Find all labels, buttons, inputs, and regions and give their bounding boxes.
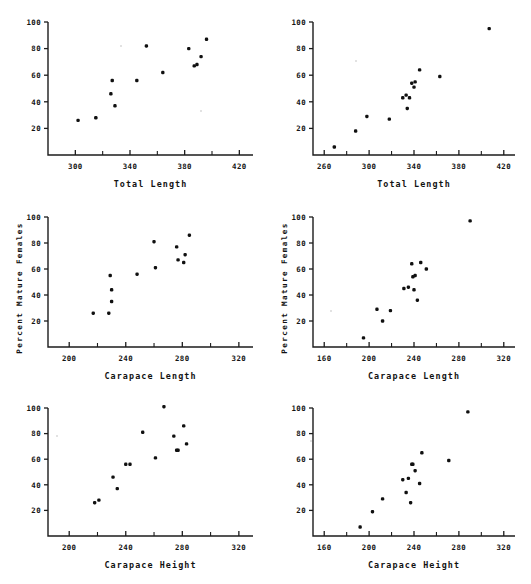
data-point — [135, 79, 138, 82]
data-point — [468, 219, 471, 222]
data-point — [199, 55, 202, 58]
data-point — [333, 145, 336, 148]
data-point — [358, 525, 361, 528]
data-point — [425, 267, 428, 270]
x-tick-label: 280 — [452, 543, 467, 552]
x-tick-label: 420 — [232, 162, 247, 171]
data-point — [113, 104, 116, 107]
data-point — [418, 482, 421, 485]
data-point — [175, 245, 178, 248]
data-point — [418, 68, 421, 71]
data-point — [401, 478, 404, 481]
x-axis-label: Carapace Height — [368, 560, 460, 570]
y-tick-label: 100 — [291, 213, 306, 222]
x-axis-label: Carapace Height — [104, 560, 196, 570]
data-point — [93, 501, 96, 504]
scatter-plot-bottom-left: 20406080100200240280320Carapace Height — [0, 390, 265, 584]
y-axis-label: Percent Mature Females — [280, 222, 289, 353]
data-point — [145, 44, 148, 47]
x-tick-label: 160 — [317, 354, 332, 363]
data-point — [389, 309, 392, 312]
data-point — [354, 129, 357, 132]
x-axis-label: Total Length — [377, 179, 451, 189]
data-point — [401, 96, 404, 99]
y-tick-label: 40 — [296, 481, 306, 490]
x-tick-label: 240 — [407, 543, 422, 552]
y-tick-label: 40 — [31, 98, 41, 107]
data-point — [381, 497, 384, 500]
y-tick-label: 100 — [26, 18, 41, 27]
y-tick-label: 20 — [296, 124, 306, 133]
y-tick-label: 60 — [31, 455, 41, 464]
figure-scatter-matrix: 20406080100300340380420Total Length 2040… — [0, 0, 531, 584]
data-point — [154, 456, 157, 459]
plot-axes — [48, 217, 253, 347]
x-axis-label: Total Length — [114, 179, 188, 189]
data-point — [404, 93, 407, 96]
data-point — [408, 96, 411, 99]
data-point — [466, 410, 469, 413]
plot-panel-bottom-left: 20406080100200240280320Carapace Height — [0, 390, 265, 584]
plot-panel-middle-right: 20406080100160200240280320Carapace Lengt… — [265, 195, 531, 390]
y-tick-label: 20 — [31, 124, 41, 133]
data-point — [409, 501, 412, 504]
scatter-plot-middle-left: 20406080100200240280320Carapace LengthPe… — [0, 195, 265, 390]
data-point — [116, 487, 119, 490]
data-point — [176, 258, 179, 261]
x-tick-label: 200 — [62, 354, 77, 363]
data-point — [109, 274, 112, 277]
x-tick-label: 420 — [496, 162, 511, 171]
data-point — [419, 261, 422, 264]
plot-panel-top-left: 20406080100300340380420Total Length — [0, 0, 265, 195]
data-point — [92, 312, 95, 315]
x-axis-label: Carapace Length — [368, 371, 460, 381]
plot-panel-top-right: 20406080100260300340380420Total Length — [265, 0, 531, 195]
data-point — [161, 71, 164, 74]
x-tick-label: 320 — [232, 354, 247, 363]
x-tick-label: 320 — [496, 354, 511, 363]
data-point — [94, 116, 97, 119]
y-tick-label: 80 — [296, 429, 306, 438]
data-point — [109, 92, 112, 95]
plot-axes — [313, 217, 515, 347]
data-point — [97, 498, 100, 501]
y-tick-label: 60 — [31, 71, 41, 80]
scatter-plot-top-left: 20406080100300340380420Total Length — [0, 0, 265, 195]
y-tick-label: 80 — [296, 239, 306, 248]
data-point — [152, 240, 155, 243]
data-point — [172, 434, 175, 437]
data-point — [371, 510, 374, 513]
data-point — [416, 299, 419, 302]
data-point — [76, 119, 79, 122]
y-tick-label: 20 — [296, 317, 306, 326]
data-point — [381, 319, 384, 322]
data-point — [407, 286, 410, 289]
scatter-plot-top-right: 20406080100260300340380420Total Length — [265, 0, 531, 195]
data-point — [135, 273, 138, 276]
x-tick-label: 320 — [232, 543, 247, 552]
x-tick-label: 260 — [317, 162, 332, 171]
y-tick-label: 40 — [296, 291, 306, 300]
data-point — [124, 463, 127, 466]
data-point — [111, 79, 114, 82]
data-point — [413, 274, 416, 277]
x-tick-label: 280 — [175, 354, 190, 363]
data-point — [141, 431, 144, 434]
data-point — [162, 405, 165, 408]
y-tick-label: 20 — [31, 506, 41, 515]
data-point — [412, 288, 415, 291]
data-point — [447, 459, 450, 462]
data-point — [183, 253, 186, 256]
data-point — [107, 312, 110, 315]
x-tick-label: 380 — [452, 162, 467, 171]
x-tick-label: 340 — [123, 162, 138, 171]
x-tick-label: 200 — [362, 543, 377, 552]
data-point — [111, 475, 114, 478]
data-point — [362, 336, 365, 339]
y-tick-label: 100 — [26, 404, 41, 413]
data-point — [182, 424, 185, 427]
data-point — [205, 38, 208, 41]
data-point — [176, 449, 179, 452]
plot-panel-bottom-right: 20406080100160200240280320Carapace Heigh… — [265, 390, 531, 584]
data-point — [110, 288, 113, 291]
